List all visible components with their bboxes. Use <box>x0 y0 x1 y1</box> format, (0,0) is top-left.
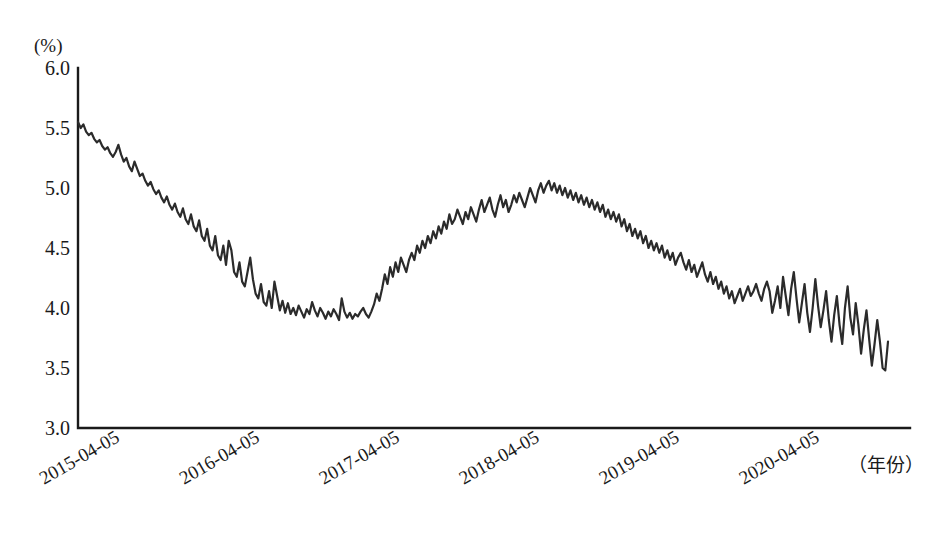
series-line-yield <box>78 122 888 370</box>
series-group <box>78 122 888 370</box>
x-axis-tick-labels: 2015-04-052016-04-052017-04-052018-04-05… <box>36 426 823 489</box>
axis-lines <box>78 68 910 428</box>
x-axis-tick-label: 2016-04-05 <box>175 426 262 489</box>
y-axis-unit-label: (%) <box>34 35 62 57</box>
y-axis-tick-label: 5.0 <box>45 177 70 199</box>
x-axis-tick-label: 2017-04-05 <box>315 426 402 489</box>
y-axis-tick-labels: 6.05.55.04.54.03.53.0 <box>45 57 70 439</box>
x-axis-tick-label: 2020-04-05 <box>735 426 822 489</box>
y-axis-tick-label: 6.0 <box>45 57 70 79</box>
y-axis-tick-label: 3.5 <box>45 357 70 379</box>
line-chart: (%) 6.05.55.04.54.03.53.0 2015-04-052016… <box>0 0 945 534</box>
y-axis-tick-label: 5.5 <box>45 117 70 139</box>
x-axis-tick-label: 2018-04-05 <box>455 426 542 489</box>
y-axis-tick-label: 4.5 <box>45 237 70 259</box>
x-axis-tick-label: 2019-04-05 <box>595 426 682 489</box>
x-axis-title: （年份） <box>848 455 924 476</box>
y-axis-tick-label: 3.0 <box>45 417 70 439</box>
chart-page: (%) 6.05.55.04.54.03.53.0 2015-04-052016… <box>0 0 945 534</box>
y-axis-tick-label: 4.0 <box>45 297 70 319</box>
